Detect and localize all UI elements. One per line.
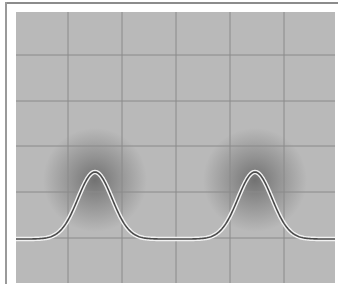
peak-glow-blob bbox=[203, 128, 307, 232]
peak-glow-blob bbox=[43, 128, 147, 232]
chart-plot bbox=[0, 0, 339, 289]
